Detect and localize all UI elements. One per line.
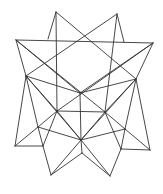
edge-line (38, 127, 81, 140)
polyhedron-drawing (0, 0, 163, 194)
edge-line (51, 140, 81, 175)
edge-line (48, 12, 56, 39)
edge-line (56, 12, 136, 79)
edge-line (56, 12, 57, 111)
edge-line (82, 153, 110, 176)
edge-line (43, 111, 57, 146)
edge-line (57, 111, 105, 112)
edge-line (81, 129, 125, 140)
edge-line (81, 140, 82, 153)
edge-line (26, 14, 117, 76)
edge-line (80, 43, 153, 93)
edge-line (16, 40, 80, 93)
edge-line (16, 40, 26, 76)
edge-line (105, 112, 125, 129)
edge-line (43, 146, 51, 175)
edge-line (117, 14, 124, 42)
edge-line (136, 79, 150, 150)
edge-line (105, 14, 117, 112)
edge-line (81, 112, 105, 140)
edge-line (110, 149, 121, 176)
edge-line (121, 149, 150, 150)
edge-line (80, 93, 81, 140)
edge-line (81, 140, 110, 176)
edge-line (125, 79, 136, 129)
edge-line (57, 111, 81, 140)
edge-line (121, 129, 125, 149)
edge-line (38, 127, 43, 146)
edge-line (16, 40, 153, 43)
edge-line (15, 127, 38, 146)
edge-line (15, 76, 26, 146)
star-polyhedron-figure (0, 0, 163, 194)
